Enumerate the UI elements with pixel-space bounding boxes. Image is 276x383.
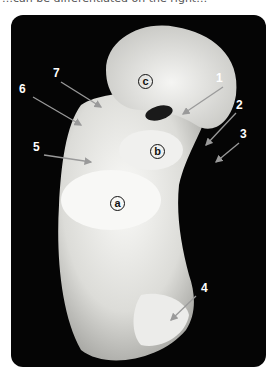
label-2: 2 bbox=[236, 99, 243, 111]
region-label-a: a bbox=[110, 196, 125, 211]
region-label-b: b bbox=[150, 144, 165, 159]
label-5: 5 bbox=[33, 141, 40, 153]
caption-text: …can be differentiated on the right… bbox=[0, 0, 276, 5]
region-label-c: c bbox=[138, 74, 153, 89]
arrow-7 bbox=[61, 82, 101, 107]
arrow-3 bbox=[216, 143, 239, 162]
bone-illustration bbox=[11, 15, 266, 367]
label-3: 3 bbox=[240, 128, 247, 140]
label-1: 1 bbox=[216, 72, 223, 84]
bone-photograph: 1 2 3 4 5 6 7 c b a bbox=[11, 15, 266, 367]
label-7: 7 bbox=[53, 67, 60, 79]
arrow-6 bbox=[33, 97, 81, 125]
label-4: 4 bbox=[201, 282, 208, 294]
label-6: 6 bbox=[19, 83, 26, 95]
